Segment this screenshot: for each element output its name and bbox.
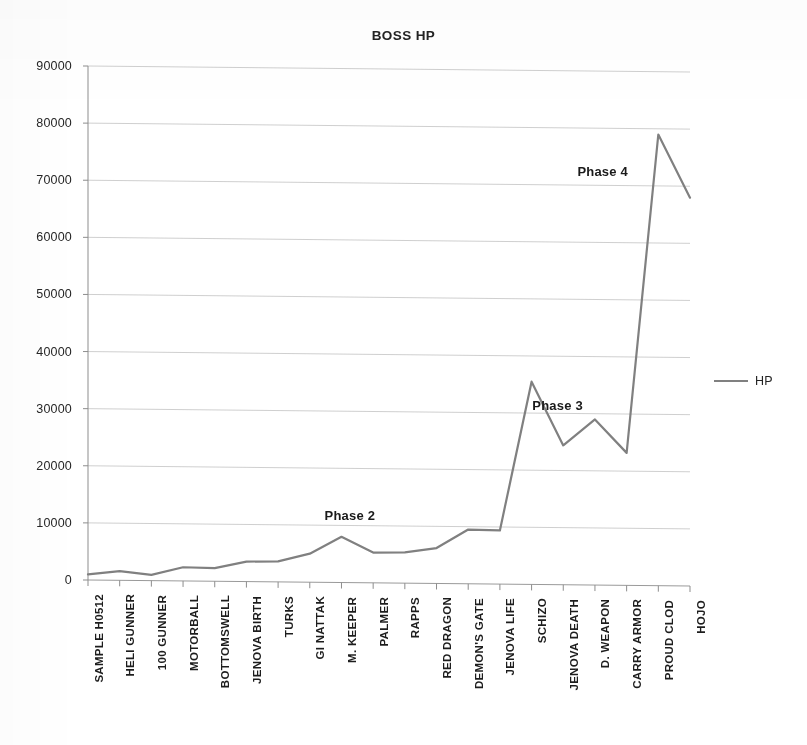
y-axis-tick-label: 10000 bbox=[36, 516, 72, 530]
gridline bbox=[88, 466, 690, 472]
gridline bbox=[88, 409, 690, 415]
y-axis-tick-label: 0 bbox=[65, 573, 72, 587]
x-axis-tick-label: HOJO bbox=[695, 600, 707, 634]
x-axis-tick-label: JENOVA BIRTH bbox=[251, 596, 263, 684]
x-axis-tick-label: RAPPS bbox=[409, 597, 421, 638]
legend-label-hp: HP bbox=[755, 374, 773, 388]
x-axis-tick-label: D. WEAPON bbox=[599, 599, 611, 668]
x-axis-tick-label: PROUD CLOD bbox=[663, 600, 675, 680]
gridline bbox=[88, 294, 690, 300]
x-axis-tick-label: PALMER bbox=[378, 597, 390, 647]
gridline bbox=[88, 123, 690, 129]
annotation-phase-3: Phase 3 bbox=[532, 398, 583, 413]
y-axis-tick-label: 20000 bbox=[36, 459, 72, 473]
y-axis-tick-label: 50000 bbox=[36, 287, 72, 301]
chart-container: BOSS HP 01000020000300004000050000600007… bbox=[0, 0, 807, 745]
y-axis-tick-label: 90000 bbox=[36, 59, 72, 73]
x-axis-tick-label: SAMPLE H0512 bbox=[93, 594, 105, 683]
x-axis-tick-label: 100 GUNNER bbox=[156, 595, 168, 670]
gridline bbox=[88, 66, 690, 72]
y-axis-tick-label: 80000 bbox=[36, 116, 72, 130]
x-axis-labels: SAMPLE H0512HELI GUNNER100 GUNNERMOTORBA… bbox=[88, 584, 690, 734]
x-axis-tick-label: BOTTOMSWELL bbox=[219, 595, 231, 688]
x-axis-tick-label: TURKS bbox=[283, 596, 295, 637]
gridline bbox=[88, 523, 690, 529]
chart-plot-svg bbox=[88, 66, 690, 580]
annotation-phase-4: Phase 4 bbox=[577, 163, 628, 178]
annotation-phase-2: Phase 2 bbox=[325, 508, 376, 523]
x-axis-tick-label: CARRY ARMOR bbox=[631, 599, 643, 689]
gridline bbox=[88, 180, 690, 186]
y-axis-tick-label: 60000 bbox=[36, 230, 72, 244]
chart-legend: HP bbox=[714, 374, 773, 388]
x-axis-tick-label: HELI GUNNER bbox=[124, 594, 136, 677]
x-axis-tick-label: JENOVA DEATH bbox=[568, 599, 580, 691]
x-axis-tick-label: DEMON'S GATE bbox=[473, 598, 485, 689]
y-axis-tick-label: 30000 bbox=[36, 402, 72, 416]
y-axis-tick-label: 40000 bbox=[36, 345, 72, 359]
legend-line-swatch-hp bbox=[714, 380, 748, 382]
x-axis-tick-label: M. KEEPER bbox=[346, 597, 358, 663]
x-axis-tick-label: GI NATTAK bbox=[314, 596, 326, 660]
plot-area bbox=[88, 66, 690, 580]
x-axis-tick-label: MOTORBALL bbox=[188, 595, 200, 671]
y-axis-tick-label: 70000 bbox=[36, 173, 72, 187]
x-axis-tick-label: RED DRAGON bbox=[441, 597, 453, 679]
chart-title: BOSS HP bbox=[0, 28, 807, 43]
gridline bbox=[88, 237, 690, 243]
gridline bbox=[88, 352, 690, 358]
x-axis-tick-label: JENOVA LIFE bbox=[504, 598, 516, 675]
y-axis-labels: 0100002000030000400005000060000700008000… bbox=[0, 0, 80, 745]
x-axis-tick-label: SCHIZO bbox=[536, 598, 548, 643]
